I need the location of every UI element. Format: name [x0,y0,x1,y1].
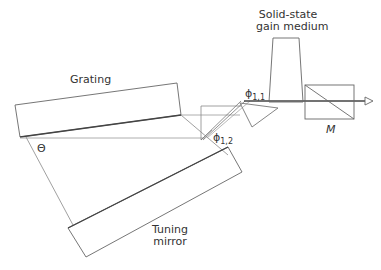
output-coupler-label: M [326,124,336,136]
phi-1-1-subscript: 1,1 [252,93,265,102]
phi-1-2-subscript: 1,2 [220,137,233,146]
grating [15,83,181,137]
optical-diagram [0,0,381,270]
phi-1-2-label: ϕ1,2 [213,132,233,148]
tuning-mirror-label: Tuning mirror [150,224,190,248]
gain-medium-label: Solid-state gain medium [256,9,320,33]
output-arrow-icon [365,97,373,105]
output-coupler-diagonal [305,85,354,119]
theta-label: Θ [37,143,46,155]
gain-medium-label-line2: gain medium [256,21,320,33]
beam-grating-to-mirror-left [26,137,73,225]
tuning-mirror-surface [68,147,228,228]
prism-1 [240,103,278,127]
tuning-mirror-label-line2: mirror [150,236,190,248]
gain-medium [269,38,303,102]
grating-surface [20,115,181,137]
grating-label: Grating [70,74,111,86]
phi-1-1-label: ϕ1,1 [245,88,265,104]
